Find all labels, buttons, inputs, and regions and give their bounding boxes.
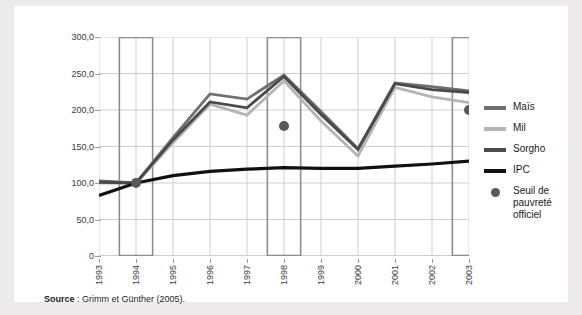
y-axis-labels: 050,0100,0150,0200,0250,0300,0: [44, 37, 94, 256]
x-axis-tick-mark: [247, 259, 248, 263]
legend-item[interactable]: Maïs: [484, 101, 568, 113]
x-axis-tick-label: 1998: [279, 265, 289, 285]
legend-item[interactable]: Seuil de pauvreté officiel: [484, 185, 568, 221]
x-axis-tick-mark: [358, 259, 359, 263]
x-axis-tick-mark: [284, 259, 285, 263]
x-axis-tick-mark: [432, 259, 433, 263]
poverty-threshold-dot: [464, 105, 469, 115]
x-axis-tick-label: 1994: [131, 265, 141, 285]
legend-dot-wrap: [484, 185, 506, 197]
legend-item[interactable]: IPC: [484, 164, 568, 176]
x-axis-tick-mark: [136, 259, 137, 263]
x-axis-tick-label: 2002: [427, 265, 437, 285]
line-chart-svg: [99, 37, 469, 256]
x-axis-tick-label: 1997: [242, 265, 252, 285]
x-axis-tick-mark: [99, 259, 100, 263]
source-label: Source: [44, 294, 75, 304]
x-axis-tick-label: 2000: [353, 265, 363, 285]
legend-item[interactable]: Sorgho: [484, 143, 568, 155]
figure-page: 050,0100,0150,0200,0250,0300,0 199319941…: [0, 0, 582, 315]
y-axis-tick-label: 250,0: [71, 69, 94, 79]
y-axis-tick-label: 150,0: [71, 142, 94, 152]
legend-dot-icon: [491, 188, 500, 197]
legend-item-label: Sorgho: [513, 143, 545, 155]
plot-area: [99, 37, 469, 256]
legend-item-label: IPC: [513, 164, 530, 176]
legend-item[interactable]: Mil: [484, 122, 568, 134]
legend-item-label: Maïs: [513, 101, 535, 113]
y-axis-tick-label: 300,0: [71, 32, 94, 42]
x-axis-tick-label: 1999: [316, 265, 326, 285]
legend-line-swatch: [484, 148, 506, 152]
legend-line-swatch: [484, 169, 506, 173]
legend-item-label: Seuil de pauvreté officiel: [513, 185, 568, 221]
legend-item-label: Mil: [513, 122, 526, 134]
source-text: Grimm et Günther (2005).: [82, 294, 185, 304]
source-separator: :: [75, 294, 83, 304]
chart-legend: MaïsMilSorghoIPCSeuil de pauvreté offici…: [484, 101, 568, 230]
y-axis-tick-mark: [95, 256, 101, 257]
x-axis-tick-mark: [210, 259, 211, 263]
x-axis-tick-label: 2003: [464, 265, 474, 285]
chart-card: 050,0100,0150,0200,0250,0300,0 199319941…: [14, 6, 568, 302]
x-axis-tick-label: 1995: [168, 265, 178, 285]
x-axis-tick-mark: [395, 259, 396, 263]
x-axis-labels: 1993199419951996199719981999200020012002…: [99, 259, 469, 315]
poverty-threshold-dot: [131, 178, 141, 188]
source-note: Source : Grimm et Günther (2005).: [44, 294, 185, 304]
y-axis-tick-label: 100,0: [71, 178, 94, 188]
x-axis-tick-mark: [321, 259, 322, 263]
x-axis-tick-label: 1993: [94, 265, 104, 285]
legend-line-swatch: [484, 106, 506, 110]
x-axis-tick-label: 1996: [205, 265, 215, 285]
y-axis-tick-label: 200,0: [71, 105, 94, 115]
legend-line-swatch: [484, 127, 506, 131]
y-axis-tick-label: 50,0: [76, 215, 94, 225]
y-axis-tick-label: 0: [89, 251, 94, 261]
poverty-threshold-dot: [279, 121, 289, 131]
x-axis-tick-label: 2001: [390, 265, 400, 285]
x-axis-tick-mark: [173, 259, 174, 263]
x-axis-tick-mark: [469, 259, 470, 263]
